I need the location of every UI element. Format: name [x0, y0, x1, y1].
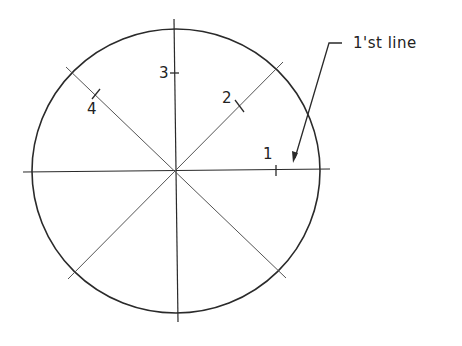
arrowhead-icon	[292, 151, 298, 163]
first-line-annotation: 1'st line	[353, 36, 417, 51]
label-2: 2	[222, 91, 232, 106]
diagonal-line-nw-se	[66, 67, 286, 278]
leader-line	[295, 43, 342, 158]
division-ticks	[92, 73, 276, 176]
label-4: 4	[87, 102, 97, 117]
tick-mark-2	[235, 100, 244, 112]
label-3: 3	[159, 66, 169, 81]
tick-mark-4	[92, 89, 100, 99]
label-1: 1	[263, 147, 273, 162]
